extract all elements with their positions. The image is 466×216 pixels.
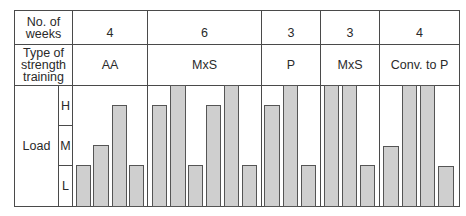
type-label-line3: training [23, 71, 64, 83]
load-bar-aa-3 [112, 105, 127, 207]
weeks-aa: 4 [73, 21, 147, 44]
load-bar-mxs1-1 [152, 105, 167, 207]
load-bar-mxs1-4 [206, 105, 221, 207]
load-bar-p-3 [301, 165, 316, 207]
load-bar-mxs1-5 [224, 85, 239, 207]
type-conv: Conv. to P [380, 45, 459, 85]
weeks-row-label: No. of weeks [15, 11, 72, 44]
load-bar-p-2 [283, 85, 298, 207]
load-bar-mxs2-3 [360, 165, 375, 207]
type-p: P [262, 45, 320, 85]
type-row-label: Type of strength training [15, 45, 72, 85]
table-right-border [459, 10, 460, 207]
weeks-p: 3 [262, 21, 320, 44]
weeks-label-line2: weeks [26, 28, 61, 40]
load-bar-aa-4 [129, 165, 144, 207]
load-bar-mxs1-2 [170, 85, 186, 207]
load-bar-mxs2-1 [324, 85, 339, 207]
weeks-mxs-1: 6 [148, 21, 261, 44]
load-bar-mxs2-2 [342, 85, 357, 207]
load-bar-conv-3 [420, 85, 435, 207]
load-bar-mxs1-3 [188, 165, 203, 207]
weeks-mxs-2: 3 [321, 21, 379, 44]
load-level-h: H [59, 86, 72, 125]
table-top-border [14, 10, 460, 11]
load-level-l: L [59, 166, 72, 206]
load-level-m: M [59, 126, 72, 165]
load-bar-aa-2 [93, 145, 109, 207]
type-mxs-2: MxS [321, 45, 379, 85]
load-bar-p-1 [264, 105, 280, 207]
type-mxs-1: MxS [148, 45, 261, 85]
type-aa: AA [73, 45, 147, 85]
weeks-label-line1: No. of [27, 16, 60, 28]
load-bar-aa-1 [76, 165, 91, 207]
load-bar-conv-2 [402, 85, 417, 207]
weeks-conv: 4 [380, 21, 459, 44]
load-bar-conv-1 [383, 146, 399, 207]
load-bar-conv-4 [438, 166, 454, 207]
load-row-label: Load [15, 86, 58, 206]
load-bar-mxs1-6 [242, 165, 257, 207]
